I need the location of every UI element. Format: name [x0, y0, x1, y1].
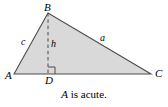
side-label-c: c: [21, 37, 25, 47]
vertex-label-b: B: [44, 2, 51, 13]
altitude-label-h: h: [51, 39, 56, 49]
side-label-a: a: [100, 33, 105, 43]
caption-text: is acute.: [68, 88, 107, 100]
figure-caption: A is acute.: [0, 89, 168, 100]
vertex-label-c: C: [155, 68, 162, 79]
geometry-figure: B A C D c h a A is acute.: [0, 0, 168, 107]
triangle-shape-abc: [14, 13, 151, 74]
caption-variable: A: [61, 88, 68, 100]
vertex-label-a: A: [5, 70, 12, 81]
vertex-label-d: D: [45, 75, 53, 86]
